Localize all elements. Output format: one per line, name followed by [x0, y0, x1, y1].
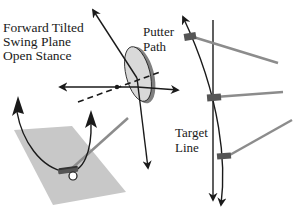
disc-center-dot [115, 85, 119, 89]
swing-plane-label-line2: Swing Plane [3, 35, 84, 49]
target-line-label-line2: Line [175, 140, 208, 155]
putting-geometry-diagram: Forward Tilted Swing Plane Open Stance P… [0, 0, 296, 214]
putter-path-label: Putter Path [143, 24, 174, 54]
golf-ball [69, 172, 77, 180]
ground-plane [14, 126, 126, 205]
swing-arc-left-arrow-icon [12, 96, 24, 116]
target-line-label: Target Line [175, 125, 208, 155]
putter-head-top [184, 32, 197, 41]
swing-plane-label-line1: Forward Tilted [3, 21, 84, 35]
putter-shaft-middle [215, 92, 283, 97]
swing-plane-label-line3: Open Stance [3, 49, 84, 63]
putter-head-bottom [217, 152, 231, 159]
putter-path-label-line1: Putter [143, 24, 174, 39]
plane-normal-axis-up [93, 10, 137, 78]
swing-plane-label: Forward Tilted Swing Plane Open Stance [3, 21, 84, 63]
target-line-label-line1: Target [175, 125, 208, 140]
putter-path-label-line2: Path [143, 39, 174, 54]
putter-shaft-bottom [228, 120, 292, 156]
putter-shaft-top [190, 36, 278, 63]
putter-head-middle [207, 93, 222, 101]
